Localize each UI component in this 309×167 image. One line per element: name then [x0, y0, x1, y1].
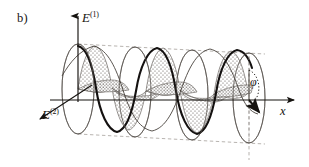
e2-axis-symbol: E — [42, 107, 50, 122]
figure-panel-b: b) E(1) E(2) x φ — [0, 0, 309, 167]
e1-axis-symbol: E — [82, 10, 90, 25]
e2-axis-label: E(2) — [42, 108, 59, 121]
e2-axis-superscript: (2) — [50, 107, 59, 116]
polarization-diagram — [0, 0, 309, 167]
phase-angle-label: φ — [250, 76, 257, 88]
e1-axis-superscript: (1) — [90, 10, 99, 19]
panel-label: b) — [17, 12, 28, 25]
e1-axis-label: E(1) — [82, 11, 99, 24]
x-axis-label: x — [280, 105, 286, 118]
